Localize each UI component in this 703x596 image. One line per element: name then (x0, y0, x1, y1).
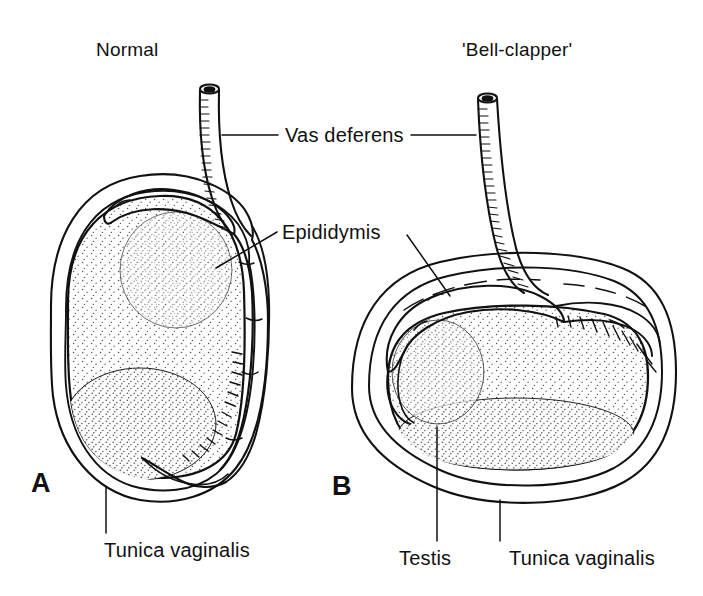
panel-title-normal: Normal (96, 40, 158, 59)
anatomy-figure: Normal 'Bell-clapper' Vas deferens Epidi… (0, 0, 703, 596)
panel-letter-b: B (332, 473, 352, 500)
label-vas-deferens: Vas deferens (285, 125, 404, 145)
label-testis: Testis (399, 548, 451, 568)
label-epididymis: Epididymis (282, 222, 381, 242)
label-tunica-vaginalis-b: Tunica vaginalis (509, 548, 655, 568)
vas-deferens-lumen-b (483, 96, 493, 101)
label-tunica-vaginalis-a: Tunica vaginalis (104, 540, 250, 560)
panel-letter-a: A (31, 470, 51, 497)
vas-deferens-right-edge-a (219, 90, 251, 236)
anatomy-diagram-svg (0, 0, 703, 596)
vas-deferens-left-edge-b (478, 100, 524, 293)
panel-title-bell-clapper: 'Bell-clapper' (462, 40, 572, 59)
leader-epididymis-right (407, 235, 450, 296)
vas-deferens-right-edge-b (497, 99, 548, 295)
vas-deferens-lumen-a (205, 87, 215, 92)
